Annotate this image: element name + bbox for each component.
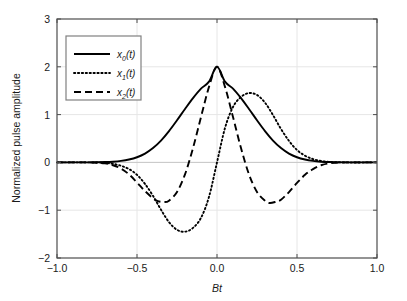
y-tick-label: 2 [44, 61, 50, 73]
x-tick-label: 1.0 [370, 262, 385, 274]
x-tick-label: −0.5 [127, 262, 148, 274]
y-tick-label: 3 [44, 13, 50, 25]
chart-figure: −1.0−0.50.00.51.0 3210−1−2 Bt Normalized… [0, 0, 407, 301]
x-tick-label: 0.0 [210, 262, 225, 274]
y-tick-label: 1 [44, 109, 50, 121]
pulse-amplitude-chart: −1.0−0.50.00.51.0 3210−1−2 Bt Normalized… [0, 0, 407, 301]
legend: x0(t)x1(t)x2(t) [66, 36, 141, 100]
y-tick-label: 0 [44, 156, 50, 168]
y-tick-label: −2 [38, 252, 50, 264]
y-tick-label: −1 [38, 204, 50, 216]
x-tick-label: 0.5 [290, 262, 305, 274]
y-axis-title: Normalized pulse amplitude [10, 73, 22, 203]
x-axis-title: Bt [212, 282, 223, 294]
